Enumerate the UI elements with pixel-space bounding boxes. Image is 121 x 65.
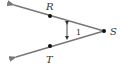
label-r: R xyxy=(45,1,54,12)
label-t: T xyxy=(46,54,54,65)
point-r xyxy=(48,14,52,18)
point-t xyxy=(48,44,52,48)
ray-sr xyxy=(14,5,104,31)
angle-diagram: R T S 1 xyxy=(0,0,121,65)
point-s xyxy=(102,29,106,33)
angle-label-1: 1 xyxy=(76,28,81,37)
ray-st xyxy=(16,31,104,57)
label-s: S xyxy=(110,26,117,37)
